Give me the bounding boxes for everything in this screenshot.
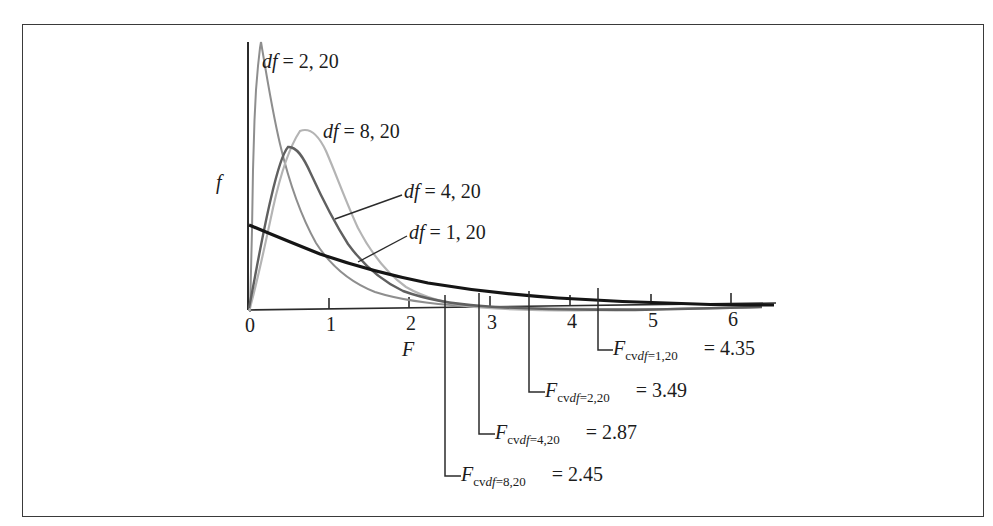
cv-equals-2-20: = — [636, 379, 647, 401]
cv-base-1-20: F — [613, 337, 625, 359]
critical-value-label-1-20: Fcvdf=1,20= 4.35 — [613, 337, 755, 364]
cv-value-8-20: 2.45 — [568, 463, 603, 485]
x-tick-label-3: 3 — [487, 311, 497, 334]
cv-sub-8-20: cvdf=8,20 — [473, 474, 526, 489]
curve-label-df-4-20: df = 4, 20 — [404, 180, 481, 203]
figure-container: f F 0 1 2 3 4 5 6 df = 2, 20 df = 8, 20 … — [0, 0, 993, 526]
cv-equals-4-20: = — [586, 421, 597, 443]
cv-base-4-20: F — [495, 421, 507, 443]
curve-label-df-8-20: df = 8, 20 — [323, 120, 400, 143]
x-tick-label-5: 5 — [648, 309, 658, 332]
critical-value-label-2-20: Fcvdf=2,20= 3.49 — [545, 379, 687, 406]
dropline-cv-8-20 — [445, 295, 461, 476]
x-tick-label-0: 0 — [245, 314, 255, 337]
curve-label-df-1-20: df = 1, 20 — [409, 221, 486, 244]
critical-value-label-4-20: Fcvdf=4,20= 2.87 — [495, 421, 637, 448]
dropline-cv-1-20 — [598, 288, 613, 350]
cv-equals-1-20: = — [704, 337, 715, 359]
curve-df-8-20 — [249, 130, 760, 311]
x-tick-label-4: 4 — [567, 310, 577, 333]
cv-value-4-20: 2.87 — [602, 421, 637, 443]
x-tick-label-2: 2 — [406, 312, 416, 335]
cv-value-1-20: 4.35 — [720, 337, 755, 359]
cv-sub-4-20: cvdf=4,20 — [507, 432, 560, 447]
cv-sub-1-20: cvdf=1,20 — [625, 348, 678, 363]
y-axis-label: f — [216, 171, 222, 194]
x-axis-label: F — [402, 338, 414, 361]
curve-df-1-20 — [249, 225, 774, 305]
curve-df-4-20 — [249, 147, 762, 310]
curve-label-df-2-20: df = 2, 20 — [262, 50, 339, 73]
cv-sub-2-20: cvdf=2,20 — [557, 390, 610, 405]
cv-base-8-20: F — [461, 463, 473, 485]
curve-df-2-20 — [250, 42, 762, 312]
x-tick-label-1: 1 — [326, 313, 336, 336]
cv-equals-8-20: = — [552, 463, 563, 485]
critical-value-label-8-20: Fcvdf=8,20= 2.45 — [461, 463, 603, 490]
x-tick-label-6: 6 — [728, 308, 738, 331]
cv-base-2-20: F — [545, 379, 557, 401]
cv-value-2-20: 3.49 — [652, 379, 687, 401]
